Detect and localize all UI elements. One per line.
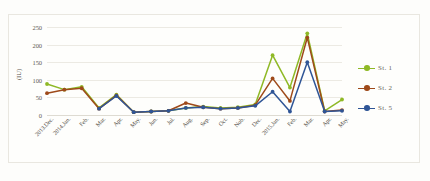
y-tick-label: 0 (39, 112, 42, 119)
data-point (115, 94, 119, 98)
legend-marker-icon (358, 84, 375, 93)
chart-legend: St. 1St. 2St. 5 (358, 58, 422, 118)
x-tick-label: Dec. (251, 116, 263, 128)
data-point (236, 106, 240, 110)
data-point (62, 88, 66, 92)
x-tick-label: Apr. (113, 116, 124, 127)
series-st-2 (45, 36, 344, 114)
chart-figure: (IU) 050100150200250 2013.Dec.2014.Jan.F… (0, 0, 430, 181)
legend-item-st-2[interactable]: St. 2 (358, 78, 422, 98)
data-point (167, 109, 171, 113)
data-point (201, 105, 205, 109)
data-point (288, 99, 292, 103)
series-layer (47, 27, 342, 115)
x-tick-label: Feb. (78, 116, 89, 127)
x-tick-label: Jul. (166, 116, 176, 126)
x-axis-ticks: 2013.Dec.2014.Jan.Feb.Mar.Apr.May.Jun.Ju… (47, 116, 342, 166)
legend-label: St. 2 (378, 84, 392, 92)
x-tick-label: Nob. (233, 116, 245, 128)
data-point (288, 110, 292, 114)
legend-marker-icon (358, 64, 375, 73)
x-tick-label: Apr. (321, 116, 332, 127)
data-point (305, 60, 309, 64)
series-st-5 (97, 60, 344, 114)
x-tick-label: May. (129, 116, 141, 129)
series-st-1 (45, 31, 344, 114)
data-point (132, 110, 136, 114)
x-tick-label: Mar. (95, 116, 107, 128)
y-tick-label: 100 (33, 76, 42, 83)
legend-marker-icon (358, 104, 375, 113)
data-point (271, 76, 275, 80)
series-line (47, 38, 342, 113)
data-point (340, 98, 344, 102)
data-point (80, 86, 84, 90)
data-point (184, 101, 188, 105)
x-tick-label: Aug. (181, 116, 193, 128)
data-point (271, 53, 275, 57)
data-point (305, 36, 309, 40)
legend-item-st-1[interactable]: St. 1 (358, 58, 422, 78)
y-tick-label: 200 (33, 41, 42, 48)
data-point (271, 90, 275, 94)
x-tick-label: Sep. (199, 116, 210, 127)
data-point (340, 109, 344, 113)
legend-label: St. 5 (378, 104, 392, 112)
x-tick-label: Mar. (303, 116, 315, 128)
data-point (45, 91, 49, 95)
x-tick-label: Jun. (148, 116, 159, 127)
data-point (97, 107, 101, 111)
data-point (323, 110, 327, 114)
plot-area (47, 27, 342, 115)
data-point (149, 110, 153, 114)
x-tick-label: 2014.Jan. (52, 116, 71, 136)
data-point (45, 82, 49, 86)
y-axis-ticks: 050100150200250 (0, 27, 45, 115)
x-tick-label: Oct. (217, 116, 228, 127)
data-point (253, 104, 257, 108)
x-tick-label: 2015.Jan. (260, 116, 279, 136)
legend-item-st-5[interactable]: St. 5 (358, 98, 422, 118)
y-tick-label: 150 (33, 59, 42, 66)
data-point (288, 86, 292, 90)
data-point (305, 31, 309, 35)
data-point (219, 107, 223, 111)
data-point (184, 106, 188, 110)
series-line (99, 62, 342, 112)
y-tick-label: 250 (33, 24, 42, 31)
y-tick-label: 50 (36, 94, 42, 101)
x-tick-label: Feb. (286, 116, 297, 127)
legend-label: St. 1 (378, 64, 392, 72)
